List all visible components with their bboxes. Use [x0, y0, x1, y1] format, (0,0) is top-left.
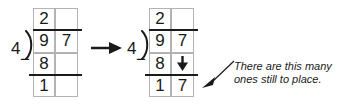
- dividend-cell-tens: 9: [149, 30, 171, 53]
- worksheet-canvas: 4 2 9 7 8: [0, 0, 338, 112]
- quotient-rule: [149, 29, 198, 31]
- dividend-cell-ones: 7: [171, 30, 194, 53]
- subtraction-rule: [29, 74, 82, 76]
- callout-label: There are this many ones still to place.: [234, 60, 332, 86]
- subtrahend-cell-tens: 8: [33, 53, 55, 75]
- subtrahend-cell-tens: 8: [149, 53, 171, 75]
- callout-line-1: There are this many: [234, 60, 332, 73]
- minus-sign: −: [136, 51, 146, 68]
- subtrahend-cell-ones: [55, 53, 78, 75]
- bring-down-cell: [171, 53, 194, 75]
- quotient-cell-ones: [55, 8, 78, 30]
- quotient-rule: [33, 29, 82, 31]
- division-grid: 2 9 7 8 1: [33, 8, 78, 97]
- dividend-cell-tens: 9: [33, 30, 55, 53]
- division-problem-before: 4 2 9 7 8: [0, 0, 90, 112]
- remainder-cell-ones: [55, 75, 78, 97]
- division-grid: 2 9 7 8: [149, 8, 194, 97]
- remainder-cell-tens: 1: [149, 75, 171, 97]
- callout-line-2: ones still to place.: [234, 73, 332, 86]
- quotient-cell-tens: 2: [149, 8, 171, 30]
- subtraction-rule: [145, 74, 198, 76]
- division-problem-after: 4 2 9 7 8: [116, 0, 206, 112]
- triangle-pointer-icon: [202, 77, 215, 88]
- callout-leader-line: [200, 58, 238, 90]
- quotient-cell-tens: 2: [33, 8, 55, 30]
- minus-sign: −: [20, 51, 30, 68]
- bring-down-arrow-icon: [176, 55, 189, 72]
- remainder-cell-tens: 1: [33, 75, 55, 97]
- dividend-cell-ones: 7: [55, 30, 78, 53]
- remainder-cell-ones: 7: [171, 75, 194, 97]
- quotient-cell-ones: [171, 8, 194, 30]
